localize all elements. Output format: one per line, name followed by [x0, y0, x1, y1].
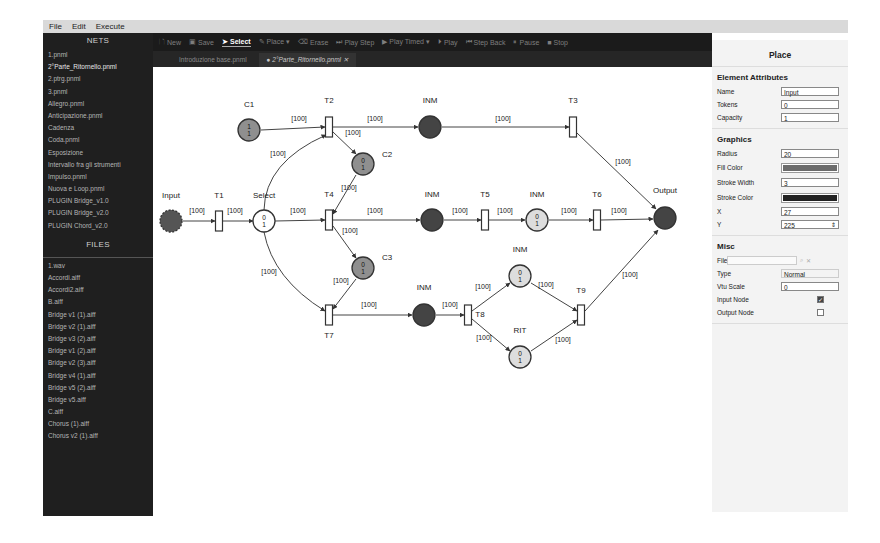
- toolbar-button-play[interactable]: ⏵Play: [438, 38, 458, 46]
- toolbar-button-pause[interactable]: ⏸Pause: [513, 38, 539, 46]
- arc[interactable]: [100]: [442, 115, 569, 127]
- toolbar-button-erase[interactable]: ⌫Erase: [298, 38, 328, 46]
- file-list-item[interactable]: Chorus v2 (1).aiff: [43, 430, 153, 442]
- arc[interactable]: [100]: [444, 207, 481, 220]
- arc[interactable]: [100]: [472, 319, 510, 351]
- net-list-item[interactable]: Anticipazione.pnml: [43, 110, 153, 122]
- net-list-item[interactable]: 2.ptrg.pnml: [43, 73, 153, 85]
- y-input[interactable]: 225⇕: [781, 220, 839, 229]
- file-list-item[interactable]: Bridge v5 (2).aiff: [43, 382, 153, 394]
- arc[interactable]: [100]: [333, 207, 420, 220]
- arc[interactable]: [100]: [333, 226, 358, 258]
- output-node-checkbox[interactable]: [817, 309, 824, 316]
- capacity-input[interactable]: 1: [781, 113, 839, 122]
- net-list-item[interactable]: 1.pnml: [43, 49, 153, 61]
- arc[interactable]: [100]: [261, 115, 325, 130]
- transition-t2[interactable]: T2: [324, 96, 334, 137]
- transition-t3[interactable]: T3: [568, 96, 578, 137]
- file-list-item[interactable]: Bridge v1 (1).aiff: [43, 309, 153, 321]
- toolbar-button-play-timed[interactable]: ▶Play Timed ▾: [382, 38, 430, 46]
- file-list-item[interactable]: B.aiff: [43, 296, 153, 308]
- arc[interactable]: [100]: [585, 230, 658, 311]
- arc[interactable]: [100]: [531, 281, 577, 311]
- stroke-width-input[interactable]: 3: [781, 178, 839, 187]
- arc[interactable]: [100]: [223, 207, 253, 221]
- radius-input[interactable]: 20: [781, 149, 839, 158]
- place-inm1[interactable]: INM: [419, 96, 441, 138]
- menu-edit[interactable]: Edit: [72, 22, 86, 31]
- file-list-item[interactable]: Bridge v2 (1).aiff: [43, 321, 153, 333]
- search-icon[interactable]: ⌕: [800, 257, 803, 264]
- arc[interactable]: [100]: [333, 301, 412, 315]
- arc[interactable]: [100]: [489, 207, 525, 220]
- net-list-item[interactable]: 2°Parte_Ritornello.pnml: [43, 61, 153, 73]
- net-list-item[interactable]: PLUGIN Bridge_v2.0: [43, 207, 153, 219]
- toolbar-button-stop[interactable]: ■Stop: [547, 39, 568, 46]
- clear-icon[interactable]: ✕: [806, 257, 811, 264]
- file-list-item[interactable]: Bridge v5.aiff: [43, 394, 153, 406]
- tokens-input[interactable]: 0: [781, 100, 839, 109]
- toolbar-button-place[interactable]: ✎Place ▾: [259, 38, 290, 46]
- file-list-item[interactable]: Bridge v2 (3).aiff: [43, 357, 153, 369]
- arc[interactable]: [100]: [601, 207, 653, 220]
- transition-t1[interactable]: T1: [214, 191, 224, 231]
- x-input[interactable]: 27: [781, 207, 839, 216]
- net-list-item[interactable]: Coda.pnml: [43, 134, 153, 146]
- file-list-item[interactable]: Accordi2.aiff: [43, 284, 153, 296]
- arc[interactable]: [100]: [333, 129, 361, 154]
- petri-net-canvas[interactable]: [100][100][100][100][100][100][100][100]…: [153, 67, 712, 516]
- place-inm5[interactable]: 01INM: [509, 245, 531, 287]
- petri-net-diagram[interactable]: [100][100][100][100][100][100][100][100]…: [153, 67, 712, 516]
- file-list-item[interactable]: Bridge v3 (2).aiff: [43, 333, 153, 345]
- arc[interactable]: [100]: [333, 115, 418, 127]
- file-input[interactable]: [727, 256, 797, 265]
- menu-execute[interactable]: Execute: [96, 22, 125, 31]
- input-node-checkbox[interactable]: ✓: [817, 296, 824, 303]
- file-list-item[interactable]: Bridge v1 (2).aiff: [43, 345, 153, 357]
- net-list-item[interactable]: Nuova e Loop.pnml: [43, 183, 153, 195]
- transition-t6[interactable]: T6: [592, 190, 602, 230]
- toolbar-button-play-step[interactable]: ⏭Play Step: [336, 38, 374, 46]
- toolbar-button-select[interactable]: ➤Select: [222, 38, 251, 47]
- transition-t5[interactable]: T5: [480, 190, 490, 230]
- place-input[interactable]: Input: [160, 191, 182, 232]
- place-inm2[interactable]: INM: [421, 190, 443, 231]
- arc[interactable]: [100]: [275, 207, 325, 221]
- place-output[interactable]: Output: [653, 186, 678, 229]
- net-list-item[interactable]: Impulso.pnml: [43, 171, 153, 183]
- file-list-item[interactable]: 1.wav: [43, 260, 153, 272]
- net-list-item[interactable]: Allegro.pnml: [43, 98, 153, 110]
- place-c3[interactable]: 01C3: [352, 253, 393, 279]
- spinner-icon[interactable]: ⇕: [831, 221, 836, 230]
- arc[interactable]: [100]: [261, 232, 325, 311]
- file-list-item[interactable]: Bridge v4 (1).aiff: [43, 370, 153, 382]
- arc[interactable]: [100]: [531, 320, 577, 351]
- name-input[interactable]: Input: [781, 87, 839, 96]
- place-select[interactable]: 01Select: [253, 191, 276, 232]
- net-list-item[interactable]: Esposizione: [43, 147, 153, 159]
- tab-2-parte-ritornello[interactable]: ● 2°Parte_Ritornello.pnml ✕: [259, 53, 356, 67]
- transition-t9[interactable]: T9: [576, 286, 586, 325]
- fill-color-swatch[interactable]: [781, 163, 839, 173]
- place-c1[interactable]: 11C1: [238, 100, 260, 141]
- toolbar-button-step-back[interactable]: ⏮Step Back: [466, 38, 506, 46]
- arc[interactable]: [100]: [183, 207, 215, 221]
- toolbar-button-save[interactable]: ▣Save: [189, 38, 214, 46]
- stroke-color-swatch[interactable]: [781, 193, 839, 203]
- net-list-item[interactable]: Intervallo fra gli strumenti: [43, 159, 153, 171]
- file-list-item[interactable]: Chorus (1).aiff: [43, 418, 153, 430]
- arc[interactable]: [100]: [333, 277, 356, 309]
- tab-introduzione[interactable]: Introduzione base.pnml: [171, 53, 255, 67]
- net-list-item[interactable]: Cadenza: [43, 122, 153, 134]
- transition-t4[interactable]: T4: [324, 190, 334, 230]
- file-list-item[interactable]: Accordi.aiff: [43, 272, 153, 284]
- place-inm4[interactable]: INM: [413, 283, 435, 326]
- net-list-item[interactable]: PLUGIN Bridge_v1.0: [43, 195, 153, 207]
- file-list-item[interactable]: C.aiff: [43, 406, 153, 418]
- arc[interactable]: [100]: [549, 207, 593, 220]
- toolbar-button-new[interactable]: 🗋New: [159, 37, 181, 48]
- arc[interactable]: [100]: [436, 301, 464, 315]
- type-select[interactable]: Normal: [781, 269, 839, 278]
- arc[interactable]: [100]: [472, 283, 510, 311]
- net-list-item[interactable]: 3.pnml: [43, 86, 153, 98]
